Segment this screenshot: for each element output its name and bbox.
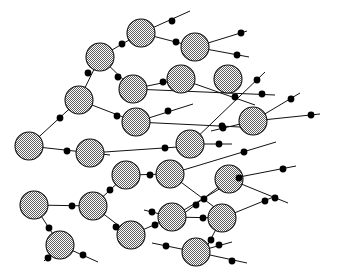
edge-marker-dot (288, 96, 295, 103)
edge-marker-dot (216, 242, 223, 249)
graph-node[interactable] (117, 221, 145, 249)
edge-marker-dot (208, 237, 215, 244)
graph-canvas (0, 0, 337, 275)
edge-marker-dot (147, 172, 154, 179)
edge-marker-dot (216, 141, 223, 148)
edge-marker-dot (200, 215, 207, 222)
graph-node[interactable] (176, 130, 204, 158)
edge-marker-dot (280, 166, 287, 173)
edge-marker-dot (107, 187, 114, 194)
edge-marker-dot (45, 255, 52, 262)
graph-node[interactable] (20, 191, 48, 219)
graph-node[interactable] (65, 86, 93, 114)
node-layer (15, 19, 267, 266)
edge-marker-dot (229, 258, 236, 265)
edge-marker-dot (262, 198, 269, 205)
edge-marker-dot (259, 91, 266, 98)
graph-node[interactable] (76, 139, 104, 167)
graph-node[interactable] (158, 203, 186, 231)
graph-node[interactable] (86, 43, 114, 71)
edge-marker-dot (115, 74, 122, 81)
graph-node[interactable] (167, 65, 195, 93)
edge-marker-dot (308, 112, 315, 119)
edge-marker-dot (201, 196, 208, 203)
edge-marker-dot (80, 252, 87, 259)
edge-marker-dot (46, 225, 53, 232)
edge-marker-dot (241, 149, 248, 156)
graph-node[interactable] (182, 238, 210, 266)
graph-node[interactable] (156, 160, 184, 188)
edge-marker-dot (119, 41, 126, 48)
edge-marker-dot (169, 18, 176, 25)
edge-marker-dot (57, 115, 64, 122)
edge-marker-dot (173, 39, 180, 46)
edge-marker-dot (236, 175, 243, 182)
graph-node[interactable] (122, 108, 150, 136)
edge-marker-dot (85, 70, 92, 77)
edge-marker-dot (149, 209, 156, 216)
edge-marker-dot (254, 77, 261, 84)
edge-marker-dot (272, 195, 279, 202)
graph-node[interactable] (46, 231, 74, 259)
graph-figure (0, 0, 337, 275)
edge-marker-dot (113, 224, 120, 231)
graph-node[interactable] (119, 75, 147, 103)
graph-node[interactable] (79, 192, 107, 220)
edge-marker-dot (232, 94, 239, 101)
graph-node[interactable] (208, 204, 236, 232)
graph-node[interactable] (15, 132, 43, 160)
graph-node[interactable] (112, 161, 140, 189)
edge-marker-dot (220, 125, 227, 132)
edge-marker-dot (162, 145, 169, 152)
edge-marker-dot (152, 222, 159, 229)
graph-node[interactable] (181, 33, 209, 61)
graph-node[interactable] (239, 107, 267, 135)
edge-marker-dot (238, 30, 245, 37)
graph-edge[interactable] (133, 89, 275, 95)
edge-marker-dot (234, 52, 241, 59)
edge-marker-dot (193, 202, 200, 209)
graph-node[interactable] (127, 19, 155, 47)
edge-marker-dot (160, 79, 167, 86)
graph-node[interactable] (214, 65, 242, 93)
edge-marker-dot (69, 203, 76, 210)
edge-marker-dot (163, 243, 170, 250)
edge-marker-dot (114, 113, 121, 120)
edge-marker-dot (64, 148, 71, 155)
edge-marker-dot (165, 108, 172, 115)
